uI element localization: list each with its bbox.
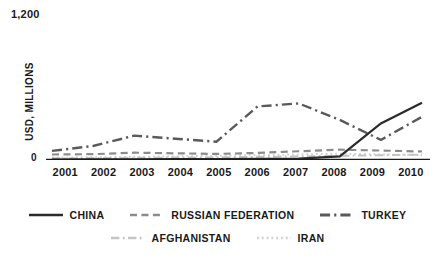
legend-label: IRAN [298,232,325,244]
legend-label: RUSSIAN FEDERATION [171,209,294,221]
x-axis-tick-labels: 2001200220032004200520062007200820092010 [46,166,430,184]
x-axis-tick-2009: 2009 [353,166,391,184]
legend-item-turkey[interactable]: TURKEY [320,209,406,221]
chart-legend: CHINARUSSIAN FEDERATIONTURKEY AFGHANISTA… [0,203,435,249]
x-axis-tick-2004: 2004 [161,166,199,184]
legend-label: TURKEY [361,209,406,221]
legend-line-swatch [257,233,291,243]
x-axis-tick-2006: 2006 [238,166,276,184]
legend-row-primary: CHINARUSSIAN FEDERATIONTURKEY [0,203,435,226]
x-axis-tick-2005: 2005 [200,166,238,184]
line-chart-figure: 1,200 0 USD, MILLIONS 200120022003200420… [0,0,435,261]
legend-label: CHINA [70,209,105,221]
x-axis-tick-2003: 2003 [123,166,161,184]
plot-svg [46,14,430,160]
legend-item-china[interactable]: CHINA [29,209,105,221]
x-axis-tick-2008: 2008 [315,166,353,184]
legend-item-afghanistan[interactable]: AFGHANISTAN [111,232,231,244]
legend-item-russian-federation[interactable]: RUSSIAN FEDERATION [130,209,294,221]
legend-item-iran[interactable]: IRAN [257,232,325,244]
x-axis-tick-2002: 2002 [84,166,122,184]
legend-label: AFGHANISTAN [152,232,231,244]
legend-row-secondary: AFGHANISTANIRAN [0,226,435,249]
series-line-turkey [52,103,422,150]
legend-line-swatch [111,233,145,243]
y-axis-zero-tick-label: 0 [31,152,37,163]
legend-line-swatch [130,210,164,220]
x-axis-tick-2001: 2001 [46,166,84,184]
y-axis-max-tick-label: 1,200 [11,8,40,20]
y-axis-title: USD, MILLIONS [24,52,35,152]
series-line-russian-federation [52,150,422,155]
x-axis-tick-2007: 2007 [276,166,314,184]
x-axis-tick-2010: 2010 [392,166,430,184]
plot-area [46,14,430,160]
legend-line-swatch [320,210,354,220]
series-line-afghanistan [52,155,422,159]
legend-line-swatch [29,210,63,220]
